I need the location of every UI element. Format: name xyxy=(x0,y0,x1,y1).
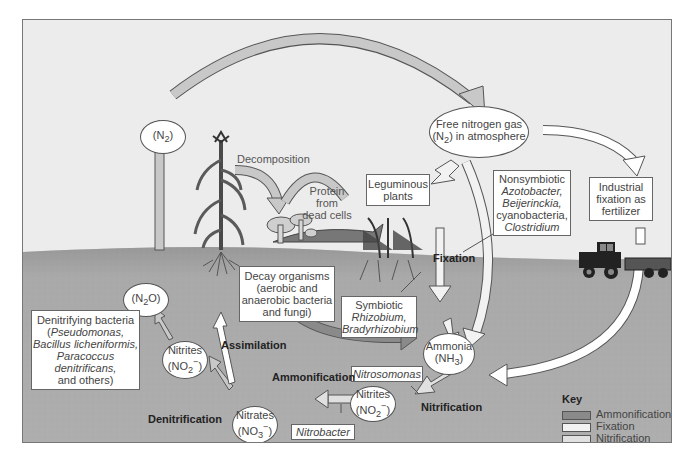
denitrifying-bacteria-box: Denitrifying bacteria (Pseudomonas, Baci… xyxy=(31,310,140,390)
ammonification-label: Ammonification xyxy=(272,371,355,383)
nitrobacter-box: Nitrobacter xyxy=(291,424,355,440)
key-item-nitrification: Nitrification xyxy=(562,432,650,443)
fixation-label: Fixation xyxy=(433,252,475,264)
nitrosomonas-box: Nitrosomonas xyxy=(351,366,423,382)
nitrites-right-node: Nitrites (NO2−) xyxy=(350,386,396,422)
nitrification-label: Nitrification xyxy=(421,401,482,413)
key-title: Key xyxy=(562,393,582,405)
protein-label: Proteinfromdead cells xyxy=(301,185,353,221)
denitrification-label: Denitrification xyxy=(148,413,222,425)
fixation-swatch xyxy=(562,423,591,432)
nitrification-swatch xyxy=(562,435,591,443)
decomposition-label: Decomposition xyxy=(237,153,310,165)
n2-node: (N2) xyxy=(140,120,186,154)
nitrates-node: Nitrates (NO3−) xyxy=(232,406,278,443)
key-item-ammonification: Ammonification xyxy=(562,408,671,420)
industrial-fixation-box: Industrialfixation asfertilizer xyxy=(589,177,653,221)
ammonification-swatch xyxy=(562,411,591,420)
decay-organisms-box: Decay organisms(aerobic andanaerobic bac… xyxy=(239,266,335,322)
key-item-fixation: Fixation xyxy=(562,420,635,432)
nonsymbiotic-box: NonsymbioticAzotobacter,Beijerinckia,cya… xyxy=(493,170,571,236)
assimilation-label: Assimilation xyxy=(221,339,286,351)
ammonia-node: Ammonia (NH3) xyxy=(423,333,475,375)
leguminous-plants-box: Leguminousplants xyxy=(366,174,430,206)
nitrites-left-node: Nitrites (NO2−) xyxy=(162,341,208,379)
diagram-frame: (N2) Free nitrogen gas (N2) in atmospher… xyxy=(22,19,672,443)
free-nitrogen-gas-node: Free nitrogen gas (N2) in atmosphere xyxy=(429,106,529,158)
symbiotic-box: SymbioticRhizobium,Bradyrhizobium xyxy=(341,296,417,338)
